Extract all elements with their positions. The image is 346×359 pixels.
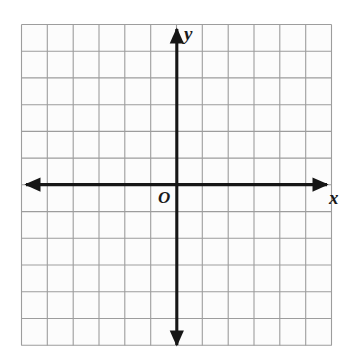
y-axis-label: y	[182, 23, 193, 44]
x-axis-label: x	[328, 187, 339, 208]
coordinate-plane-figure: y x O	[0, 0, 346, 359]
origin-label: O	[158, 188, 170, 207]
coordinate-plane-svg: y x O	[0, 0, 346, 359]
